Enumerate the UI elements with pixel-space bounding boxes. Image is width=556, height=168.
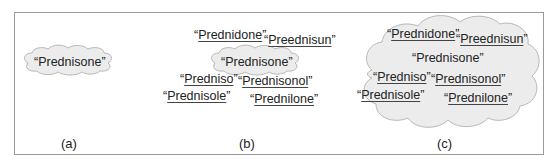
center-word-c: “Prednisone” — [412, 51, 484, 65]
center-word-a: “Prednisone” — [34, 55, 106, 69]
variant-word: “Prednilone” — [444, 91, 512, 105]
variant-word: “Predniso” — [180, 72, 238, 86]
variant-word: “Prednisonol” — [431, 72, 505, 86]
variant-word: “Prednisonol” — [238, 74, 312, 88]
variant-word: “Prednidone” — [387, 27, 459, 41]
variant-word: “Preednisun” — [456, 32, 528, 46]
variant-word: “Preednisun” — [264, 33, 336, 47]
panel-label-a: (a) — [61, 136, 77, 151]
panel-label-c: (c) — [437, 136, 452, 151]
variant-word: “Prednisole” — [163, 89, 230, 103]
variant-word: “Prednidone” — [194, 28, 266, 42]
panel-label-b: (b) — [239, 136, 255, 151]
variant-word: “Predniso” — [373, 70, 431, 84]
center-word-b: “Prednisone” — [221, 55, 293, 69]
variant-word: “Prednisole” — [357, 88, 424, 102]
variant-word: “Prednilone” — [250, 92, 318, 106]
